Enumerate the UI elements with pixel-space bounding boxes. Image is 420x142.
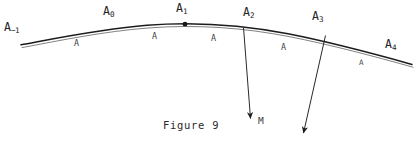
figure-caption: Figure 9	[163, 120, 219, 131]
vertex-label-base: A	[176, 1, 183, 15]
arc-inner-stroke	[22, 26, 413, 67]
segment-label-seg-4: A	[281, 43, 286, 51]
vertex-label-a-3: A3	[312, 11, 323, 24]
figure-9-container: A−1A0A1A2A3A4 AAAAA M Figure 9	[0, 0, 420, 142]
vertex-label-a-2: A2	[243, 7, 254, 20]
vertex-label-base: A	[4, 20, 11, 34]
segment-label-seg-3: A	[211, 34, 216, 42]
vertex-label-a-0: A0	[103, 6, 114, 19]
arrow-from-a2	[244, 28, 251, 119]
arrow-from-a3	[304, 36, 326, 134]
segment-label-seg-5: A	[359, 59, 364, 67]
vertex-label-subscript: 1	[183, 7, 187, 16]
vertex-label-subscript: −1	[11, 26, 19, 35]
vertex-label-subscript: 2	[250, 11, 254, 20]
segment-label-seg-2: A	[152, 32, 157, 40]
m-label: M	[258, 116, 264, 126]
segment-label-seg-1: A	[74, 39, 79, 47]
vertex-label-a-1: A1	[176, 3, 187, 16]
vertex-label-subscript: 4	[392, 43, 396, 52]
vertex-label-base: A	[312, 9, 319, 23]
vertex-label-base: A	[243, 5, 250, 19]
arc-band	[21, 24, 413, 68]
vertex-label-base: A	[103, 4, 110, 18]
vertex-label-base: A	[385, 37, 392, 51]
vertex-label-subscript: 3	[319, 15, 323, 24]
vertex-label-a-4: A4	[385, 39, 396, 52]
arc-outer-stroke	[21, 24, 412, 65]
vertex-label-a-minus-1: A−1	[4, 22, 19, 35]
vertex-marker-a1	[183, 22, 188, 27]
vertex-label-subscript: 0	[110, 10, 114, 19]
